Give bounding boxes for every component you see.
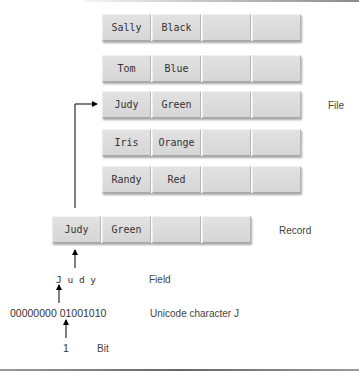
record-to-file-arrow xyxy=(75,104,97,208)
bottom-rule xyxy=(0,369,359,371)
hierarchy-arrows xyxy=(0,0,359,373)
